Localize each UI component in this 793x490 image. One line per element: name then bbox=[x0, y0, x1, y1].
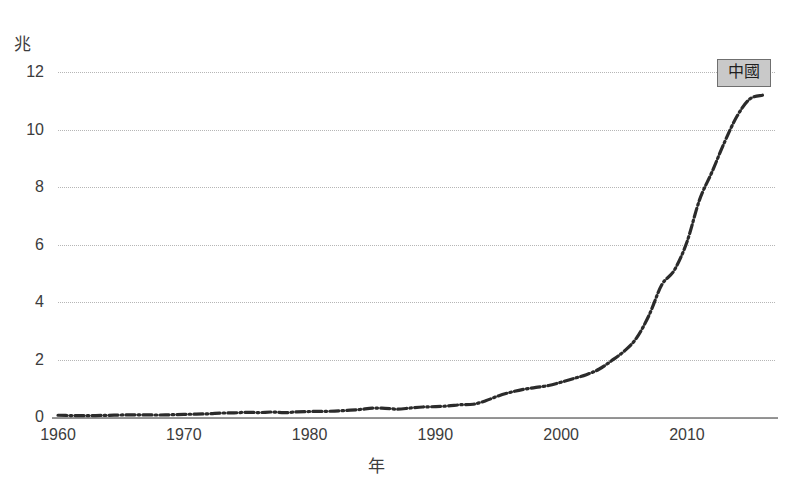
x-axis-title: 年 bbox=[0, 452, 793, 477]
y-axis-tick-label: 4 bbox=[10, 293, 44, 311]
y-axis-tick-label: 2 bbox=[10, 351, 44, 369]
series-label-china[interactable]: 中國 bbox=[717, 59, 771, 87]
gridline bbox=[58, 360, 775, 361]
chart-root: 兆 121086420 196019701980199020002010 年 中… bbox=[0, 0, 793, 490]
x-axis-tick-label: 2010 bbox=[669, 426, 705, 444]
x-axis-tick-label: 1960 bbox=[40, 426, 76, 444]
x-axis-line bbox=[52, 417, 778, 419]
x-axis-tick-label: 2000 bbox=[543, 426, 579, 444]
gridline bbox=[58, 187, 775, 188]
x-axis-title-text: 年 bbox=[368, 452, 385, 477]
gridline bbox=[58, 130, 775, 131]
y-axis-unit-label: 兆 bbox=[14, 30, 31, 55]
x-axis-tick-label: 1990 bbox=[418, 426, 454, 444]
y-axis-tick-label: 8 bbox=[10, 178, 44, 196]
gridline bbox=[58, 302, 775, 303]
y-axis-tick-label: 12 bbox=[10, 63, 44, 81]
x-axis-tick-label: 1970 bbox=[166, 426, 202, 444]
y-axis-tick-label: 0 bbox=[10, 408, 44, 426]
x-axis-tick-label: 1980 bbox=[292, 426, 328, 444]
series-label-text: 中國 bbox=[728, 63, 760, 80]
y-axis-tick-label: 6 bbox=[10, 236, 44, 254]
series-line-china bbox=[58, 95, 762, 415]
gridline bbox=[58, 245, 775, 246]
y-axis-tick-label: 10 bbox=[10, 121, 44, 139]
gridline bbox=[58, 72, 775, 73]
